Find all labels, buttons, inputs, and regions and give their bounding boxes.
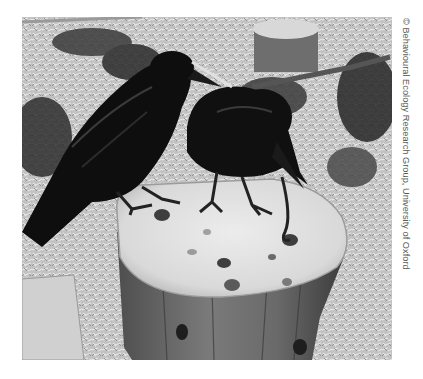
- small-stump-background: [253, 19, 319, 72]
- paving-stone: [22, 275, 84, 360]
- crow-photograph: [22, 17, 392, 360]
- copyright-credit: © Behavioural Ecology Research Group, Un…: [398, 18, 414, 318]
- copyright-text: © Behavioural Ecology Research Group, Un…: [401, 18, 411, 270]
